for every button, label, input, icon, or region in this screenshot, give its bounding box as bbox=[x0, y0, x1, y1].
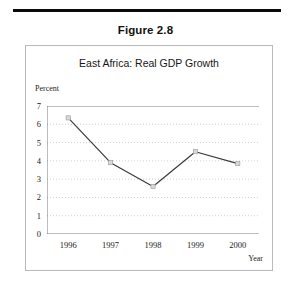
y-axis-label: Percent bbox=[35, 84, 59, 93]
top-divider-rule bbox=[13, 9, 281, 12]
x-axis-label: Year bbox=[248, 254, 263, 263]
data-line bbox=[68, 118, 238, 187]
chart-title: East Africa: Real GDP Growth bbox=[26, 57, 272, 69]
figure-caption: Figure 2.8 bbox=[0, 24, 291, 36]
plot-area: 01234567 19961997199819992000 bbox=[47, 106, 259, 234]
y-tick-label: 5 bbox=[27, 138, 41, 148]
y-tick-label: 6 bbox=[27, 119, 41, 129]
y-tick-label: 7 bbox=[27, 101, 41, 111]
chart-frame: East Africa: Real GDP Growth Percent 012… bbox=[25, 45, 273, 271]
data-markers bbox=[66, 116, 240, 189]
x-tick-label: 1998 bbox=[136, 240, 170, 250]
x-tick-label: 1996 bbox=[51, 240, 85, 250]
y-tick-label: 4 bbox=[27, 156, 41, 166]
x-tick-label: 2000 bbox=[221, 240, 255, 250]
y-tick-label: 0 bbox=[27, 229, 41, 239]
line-chart-svg bbox=[47, 106, 259, 234]
gridlines bbox=[47, 124, 259, 215]
y-tick-label: 2 bbox=[27, 192, 41, 202]
axes bbox=[47, 106, 259, 234]
y-tick-label: 1 bbox=[27, 211, 41, 221]
x-tick-label: 1997 bbox=[94, 240, 128, 250]
x-tick-label: 1999 bbox=[178, 240, 212, 250]
y-tick-label: 3 bbox=[27, 174, 41, 184]
